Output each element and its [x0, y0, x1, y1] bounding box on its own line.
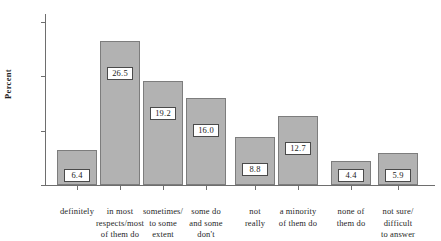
x-axis-spine: [45, 185, 435, 186]
x-axis-label-line: to answer: [367, 229, 429, 241]
x-tick-mark: [206, 185, 207, 190]
bar[interactable]: [235, 137, 275, 185]
x-tick-mark: [298, 185, 299, 190]
x-tick-mark: [77, 185, 78, 190]
bar[interactable]: [100, 41, 140, 185]
bar-value-label: 4.4: [338, 169, 364, 182]
x-tick-mark: [351, 185, 352, 190]
x-tick-mark: [120, 185, 121, 190]
plot-area: 0102030 6.426.519.216.08.812.74.45.9 def…: [45, 14, 435, 185]
bar-value-label: 5.9: [385, 169, 411, 182]
bar-value-label: 16.0: [193, 124, 219, 137]
y-tick-mark: [41, 76, 46, 77]
bar-value-label: 26.5: [107, 67, 133, 80]
x-axis-label-line: difficult: [367, 218, 429, 230]
bar-chart: Percent 0102030 6.426.519.216.08.812.74.…: [0, 0, 441, 241]
x-tick-mark: [398, 185, 399, 190]
y-tick-mark: [41, 185, 46, 186]
bar-value-label: 19.2: [150, 107, 176, 120]
bar-value-label: 6.4: [64, 169, 90, 182]
bar-value-label: 12.7: [285, 142, 311, 155]
y-axis-title: Percent: [3, 69, 13, 99]
bar[interactable]: [186, 98, 226, 185]
x-axis-category-label: not sure/difficultto answer: [367, 206, 429, 241]
y-tick-mark: [41, 131, 46, 132]
bar-value-label: 8.8: [242, 163, 268, 176]
x-tick-mark: [163, 185, 164, 190]
bar[interactable]: [143, 81, 183, 185]
x-tick-mark: [255, 185, 256, 190]
x-axis-label-line: not sure/: [367, 206, 429, 218]
x-axis-label-line: don't: [175, 229, 237, 241]
y-tick-mark: [41, 22, 46, 23]
y-axis-spine: [45, 14, 46, 186]
